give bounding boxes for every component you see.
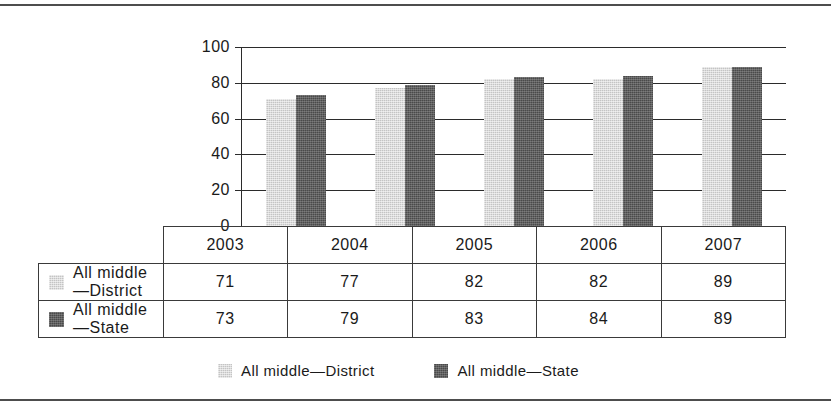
cell-state-2003: 73: [163, 301, 288, 338]
y-tick-label-100: 100: [202, 38, 230, 56]
y-tick-80: [235, 83, 242, 84]
cell-state-2005: 83: [412, 301, 537, 338]
legend-swatch-state-icon: [434, 364, 448, 378]
chart-figure: 020406080100 2003 2004 2005 2006 2007: [0, 0, 831, 416]
series-label-district: All middle—District: [73, 264, 163, 300]
y-tick-40: [235, 154, 242, 155]
cell-state-2006: 84: [537, 301, 662, 338]
bar-state-2003: [296, 95, 326, 226]
table-row-label-district: All middle—District: [39, 264, 164, 301]
bar-district-2004: [375, 88, 405, 226]
table-header-2006: 2006: [537, 227, 662, 264]
y-tick-label-20: 20: [211, 181, 230, 199]
bar-district-2005: [484, 79, 514, 226]
cell-district-2003: 71: [163, 264, 288, 301]
series-swatch-district-icon: [49, 275, 64, 290]
bar-state-2004: [405, 85, 435, 226]
table-header-row: 2003 2004 2005 2006 2007: [39, 227, 786, 264]
plot-area: 020406080100: [242, 47, 786, 226]
legend-label-state: All middle—State: [457, 362, 578, 379]
gridline-100: [242, 47, 786, 48]
y-tick-label-40: 40: [211, 145, 230, 163]
table-header-2007: 2007: [661, 227, 786, 264]
figure-bottom-rule: [0, 399, 831, 401]
figure-top-rule: [0, 4, 831, 6]
table-header-2005: 2005: [412, 227, 537, 264]
legend-item-state: All middle—State: [434, 362, 578, 379]
cell-state-2007: 89: [661, 301, 786, 338]
cell-district-2007: 89: [661, 264, 786, 301]
data-table: 2003 2004 2005 2006 2007 All middle—Dist…: [38, 226, 786, 338]
series-swatch-state-icon: [49, 312, 64, 327]
series-label-state: All middle—State: [73, 301, 163, 337]
table-header-2004: 2004: [288, 227, 413, 264]
bar-district-2006: [593, 79, 623, 226]
bar-district-2003: [266, 99, 296, 226]
y-tick-20: [235, 190, 242, 191]
y-tick-100: [235, 47, 242, 48]
table-header-2003: 2003: [163, 227, 288, 264]
y-tick-label-60: 60: [211, 110, 230, 128]
cell-district-2006: 82: [537, 264, 662, 301]
cell-district-2004: 77: [288, 264, 413, 301]
legend-label-district: All middle—District: [241, 362, 374, 379]
chart-legend: All middle—District All middle—State: [218, 362, 579, 379]
table-row: All middle—State 73 79 83 84 89: [39, 301, 786, 338]
cell-district-2005: 82: [412, 264, 537, 301]
table-corner-cell: [39, 227, 164, 264]
legend-swatch-district-icon: [218, 364, 232, 378]
bar-state-2006: [623, 76, 653, 226]
legend-item-district: All middle—District: [218, 362, 374, 379]
table-row-label-state: All middle—State: [39, 301, 164, 338]
y-tick-60: [235, 119, 242, 120]
y-axis-line: [241, 47, 242, 226]
y-tick-label-80: 80: [211, 74, 230, 92]
cell-state-2004: 79: [288, 301, 413, 338]
bar-state-2007: [732, 67, 762, 226]
bar-state-2005: [514, 77, 544, 226]
table-row: All middle—District 71 77 82 82 89: [39, 264, 786, 301]
bar-district-2007: [702, 67, 732, 226]
